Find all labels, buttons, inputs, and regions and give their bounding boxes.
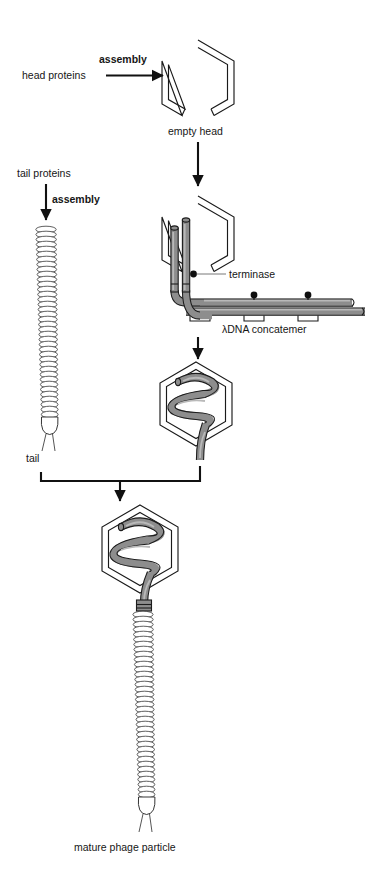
mature-phage-label: mature phage particle bbox=[74, 841, 176, 853]
concatemer-cut-mark-2 bbox=[298, 316, 318, 322]
concatemer-cut-mark-1 bbox=[244, 316, 264, 322]
mature-fiber-left bbox=[139, 814, 143, 832]
dna-tube-right-opening bbox=[182, 218, 189, 222]
mature-collar bbox=[137, 600, 152, 611]
head-proteins-label: head proteins bbox=[22, 69, 86, 81]
tail-baseplate bbox=[41, 417, 58, 435]
merge-bracket bbox=[41, 466, 200, 481]
dna-entering-head bbox=[171, 218, 190, 292]
tail-label: tail bbox=[26, 452, 39, 464]
tail-assembly-step: tail proteins assembly bbox=[17, 167, 100, 220]
phage-assembly-diagram: head proteins assembly empty head bbox=[0, 0, 365, 879]
tail-rings bbox=[36, 226, 58, 418]
lambda-dna-concatemer bbox=[171, 290, 365, 321]
empty-head-neck-left bbox=[182, 109, 185, 116]
empty-head-label: empty head bbox=[168, 125, 223, 137]
tail-fiber-right bbox=[53, 434, 56, 451]
concatemer-upper-end-cap bbox=[352, 299, 354, 306]
tail-fiber-left bbox=[42, 434, 46, 451]
concatemer-label: λDNA concatemer bbox=[222, 323, 307, 335]
maturation-connector bbox=[41, 466, 200, 501]
empty-head-structure: empty head bbox=[162, 40, 234, 137]
filled-head-structure bbox=[160, 362, 232, 460]
dna-packaging-step: terminase λDNA concatemer bbox=[162, 196, 365, 335]
tail-proteins-label: tail proteins bbox=[17, 167, 71, 179]
dna-tube-right bbox=[182, 220, 189, 292]
empty-head-inner-wall bbox=[169, 48, 228, 110]
empty-head-neck-right bbox=[211, 109, 214, 116]
tail-structure: tail bbox=[26, 226, 58, 464]
mature-coil-end-cap bbox=[118, 523, 123, 530]
packaging-head-neck-right bbox=[211, 265, 214, 272]
dna-tube-left bbox=[171, 228, 178, 292]
coil-end-cap bbox=[175, 378, 180, 385]
terminase-annotation: terminase bbox=[190, 268, 275, 280]
head-assembly-step: head proteins assembly bbox=[22, 53, 163, 81]
terminase-dot-main bbox=[190, 271, 197, 278]
mature-tail-rings bbox=[133, 611, 155, 798]
terminase-label: terminase bbox=[229, 268, 275, 280]
mature-tail-baseplate bbox=[138, 797, 155, 815]
head-assembly-label: assembly bbox=[99, 53, 147, 65]
mature-fiber-right bbox=[150, 814, 153, 832]
mature-phage-particle: mature phage particle bbox=[74, 505, 178, 853]
tail-assembly-label: assembly bbox=[52, 193, 100, 205]
dna-tube-left-opening bbox=[171, 226, 178, 230]
